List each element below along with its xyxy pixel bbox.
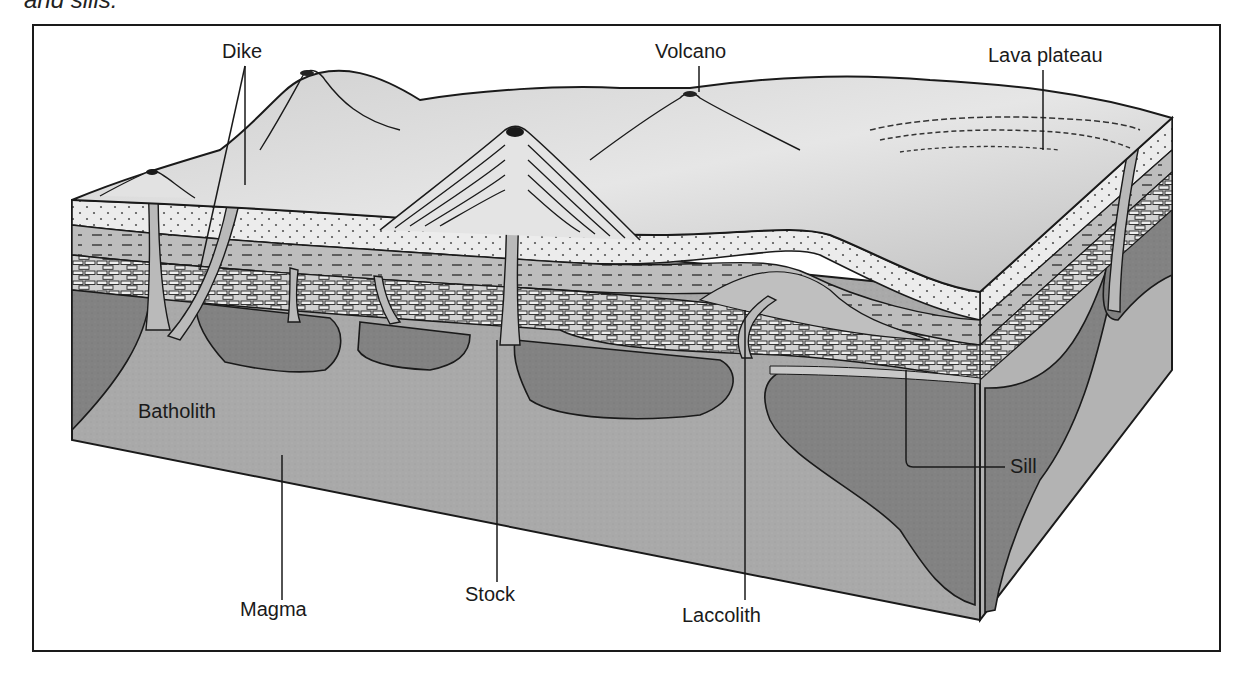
label-volcano: Volcano (655, 40, 726, 62)
label-stock: Stock (465, 583, 516, 605)
block-diagram: Dike Volcano Lava plateau Batholith Magm… (0, 0, 1253, 684)
label-laccolith: Laccolith (682, 604, 761, 626)
label-lava-plateau: Lava plateau (988, 44, 1103, 66)
label-sill: Sill (1010, 455, 1037, 477)
label-batholith: Batholith (138, 400, 216, 422)
label-dike: Dike (222, 40, 262, 62)
label-magma: Magma (240, 598, 308, 620)
